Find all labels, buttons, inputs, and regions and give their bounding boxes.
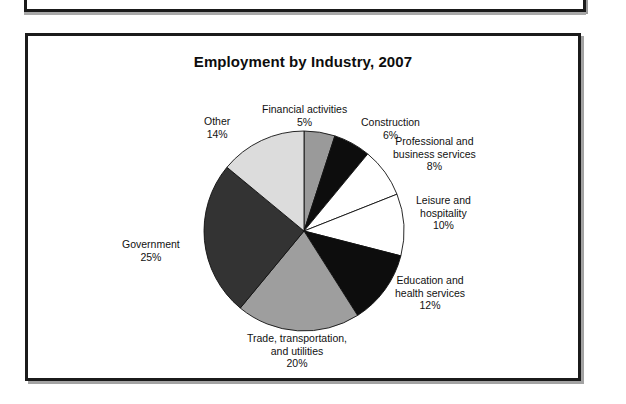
pie-label-education-and-health-services-name-line1: Education and (396, 274, 463, 286)
pie-label-financial-activities: Financial activities 5% (262, 103, 347, 128)
figure-container: Employment by Industry, 2007 (25, 33, 581, 381)
pie-label-other-value: 14% (204, 128, 230, 141)
pie-label-other-name: Other (204, 115, 230, 127)
pie-label-trade-transportation-and-utilities-name-line1: Trade, transportation, (247, 332, 347, 344)
pie-label-trade-transportation-and-utilities-value: 20% (247, 357, 347, 370)
pie-label-trade-transportation-and-utilities-name-line2: and utilities (271, 345, 324, 357)
pie-label-leisure-and-hospitality-name-line2: hospitality (420, 207, 467, 219)
pie-label-professional-and-business-services-name-line2: business services (393, 148, 476, 160)
pie-slices (204, 131, 404, 331)
pie-label-leisure-and-hospitality-value: 10% (416, 219, 471, 232)
pie-label-other: Other 14% (204, 115, 230, 140)
pie-label-professional-and-business-services-name-line1: Professional and (395, 135, 473, 147)
pie-label-government: Government 25% (122, 238, 180, 263)
pie-label-construction-name: Construction (361, 116, 420, 128)
pie-label-leisure-and-hospitality: Leisure and hospitality 10% (416, 194, 471, 232)
pie-label-trade-transportation-and-utilities: Trade, transportation, and utilities 20% (247, 332, 347, 370)
pie-label-financial-activities-value: 5% (262, 116, 347, 129)
pie-label-education-and-health-services-value: 12% (395, 299, 465, 312)
pie-label-financial-activities-name: Financial activities (262, 103, 347, 115)
pie-label-professional-and-business-services-value: 8% (393, 160, 476, 173)
pie-label-leisure-and-hospitality-name-line1: Leisure and (416, 194, 471, 206)
pie-label-government-name: Government (122, 238, 180, 250)
previous-figure-frame-remnant (24, 0, 586, 12)
pie-label-education-and-health-services-name-line2: health services (395, 287, 465, 299)
pie-label-government-value: 25% (122, 251, 180, 264)
pie-label-education-and-health-services: Education and health services 12% (395, 274, 465, 312)
pie-chart: Financial activities 5% Construction 6% … (28, 36, 584, 384)
pie-label-professional-and-business-services: Professional and business services 8% (393, 135, 476, 173)
